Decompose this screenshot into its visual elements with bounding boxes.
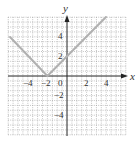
y-tick-4: 4 [58, 31, 63, 41]
x-tick-0: 0 [58, 78, 63, 88]
x-tick-2: 2 [84, 78, 89, 88]
y-tick-neg2: −2 [54, 90, 64, 100]
graph: x y −4 −2 0 2 4 4 2 −2 −4 [0, 0, 137, 142]
y-axis-arrow-icon [65, 15, 70, 22]
y-tick-2: 2 [58, 51, 63, 61]
y-tick-neg4: −4 [54, 110, 64, 120]
x-tick-neg4: −4 [23, 78, 33, 88]
x-axis-label: x [129, 70, 135, 82]
x-axis-arrow-icon [121, 74, 128, 79]
y-axis-label: y [62, 2, 68, 14]
x-tick-neg2: −2 [41, 78, 51, 88]
x-tick-4: 4 [104, 78, 109, 88]
